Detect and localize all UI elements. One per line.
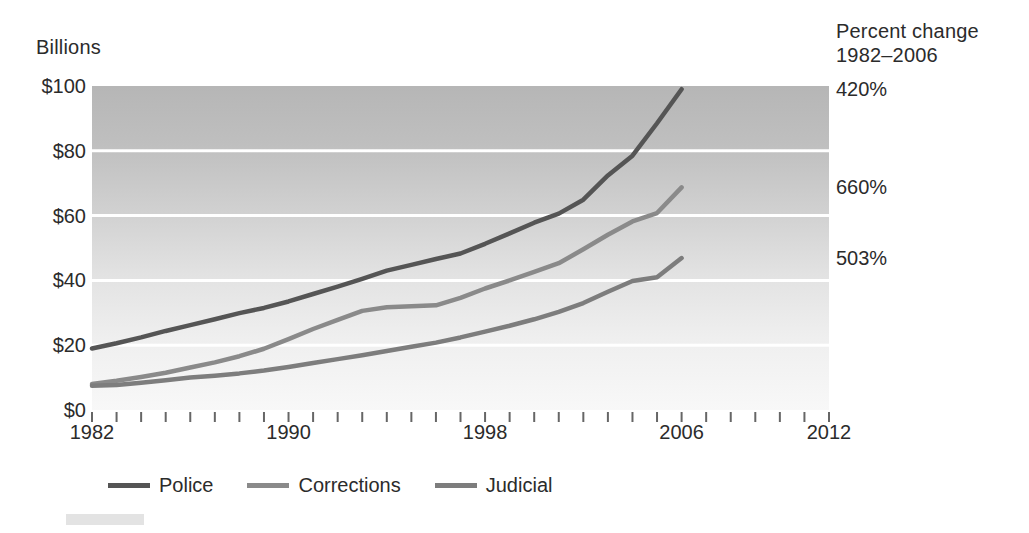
legend-swatch-icon <box>435 483 477 488</box>
legend-item-corrections[interactable]: Corrections <box>247 474 400 497</box>
legend-item-judicial[interactable]: Judicial <box>435 474 553 497</box>
legend-swatch-icon <box>108 483 150 488</box>
legend-item-police[interactable]: Police <box>108 474 213 497</box>
plot-background <box>92 86 829 410</box>
legend-swatch-icon <box>247 483 289 488</box>
scan-artifact <box>66 514 144 525</box>
x-axis-tick-marks <box>92 412 829 422</box>
chart-figure: Billions Percent change 1982–2006 $0$20$… <box>0 0 1029 533</box>
legend-label: Judicial <box>486 474 553 497</box>
chart-legend: PoliceCorrectionsJudicial <box>108 474 586 497</box>
plot-canvas <box>0 0 1029 533</box>
legend-label: Police <box>159 474 213 497</box>
legend-label: Corrections <box>298 474 400 497</box>
